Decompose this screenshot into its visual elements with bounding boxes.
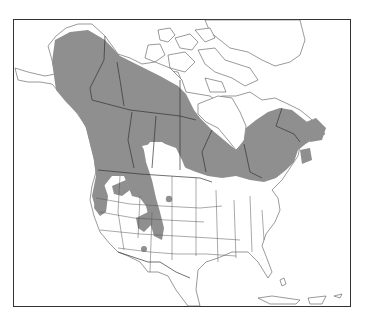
- range-map: [0, 0, 372, 313]
- caribbean-islands: [258, 278, 342, 304]
